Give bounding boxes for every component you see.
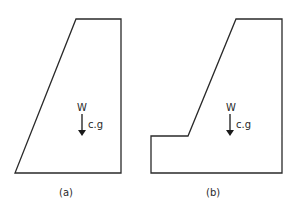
figure-a: W c.g (a) (15, 19, 121, 198)
figure-b: W c.g (b) (151, 19, 282, 198)
section-outline-b (151, 19, 282, 173)
diagram-canvas: W c.g (a) W c.g (b) (0, 0, 297, 208)
arrow-down-icon (226, 130, 234, 136)
weight-label-a: W (77, 102, 87, 113)
caption-a: (a) (59, 187, 73, 198)
weight-label-b: W (226, 102, 236, 113)
section-outline-a (15, 19, 121, 173)
arrow-down-icon (78, 130, 86, 136)
cg-label-a: c.g (88, 119, 103, 130)
caption-b: (b) (206, 187, 220, 198)
cg-label-b: c.g (236, 119, 251, 130)
